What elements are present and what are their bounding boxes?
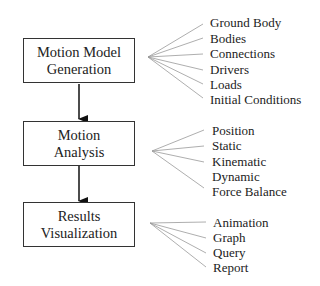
motion-analysis-box: Motion Analysis [23,121,135,166]
item-label: Animation [213,215,269,231]
box-label: Results [58,208,101,225]
fan-2 [152,130,204,188]
item-label: Dynamic [212,169,260,185]
item-label: Initial Conditions [210,92,301,108]
item-label: Bodies [210,31,246,47]
fan-1 [148,24,203,98]
item-label: Loads [210,77,242,93]
fan-3 [150,222,206,267]
item-label: Kinematic [212,154,266,170]
motion-model-generation-box: Motion Model Generation [23,38,135,83]
item-label: Static [212,138,242,154]
item-label: Position [212,123,255,139]
item-label: Ground Body [210,15,281,31]
item-label: Report [213,260,248,276]
item-label: Force Balance [212,184,287,200]
box-label: Motion [58,127,101,144]
box-label: Analysis [54,144,105,161]
box-label: Generation [47,61,111,78]
box-label: Visualization [41,225,117,242]
item-label: Graph [213,230,246,246]
results-visualization-box: Results Visualization [23,202,135,247]
item-label: Query [213,245,246,261]
box-label: Motion Model [37,44,121,61]
item-label: Drivers [210,62,249,78]
item-label: Connections [210,46,275,62]
